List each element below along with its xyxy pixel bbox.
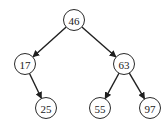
- tree-node-46: 46: [64, 10, 85, 31]
- tree-node-25: 25: [36, 98, 57, 119]
- edge-63-55: [105, 73, 119, 98]
- node-label: 17: [20, 59, 32, 71]
- node-label: 46: [69, 15, 81, 27]
- edge-46-63: [82, 27, 116, 57]
- tree-node-17: 17: [15, 54, 36, 75]
- edge-46-17: [33, 27, 66, 57]
- binary-tree-diagram: 46 17 63 25 55 97: [0, 0, 167, 129]
- edge-63-97: [129, 73, 144, 98]
- node-label: 55: [95, 103, 107, 115]
- edge-17-25: [30, 73, 42, 98]
- node-label: 97: [145, 103, 157, 115]
- node-label: 25: [41, 103, 53, 115]
- node-label: 63: [119, 59, 131, 71]
- tree-node-55: 55: [90, 98, 111, 119]
- tree-node-97: 97: [140, 98, 161, 119]
- nodes-layer: 46 17 63 25 55 97: [15, 10, 161, 119]
- tree-node-63: 63: [114, 54, 135, 75]
